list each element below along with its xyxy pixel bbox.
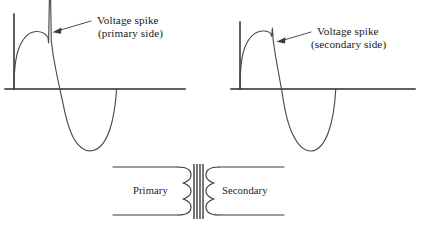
primary-leader-arrowhead [53,28,62,34]
primary-coil [178,167,191,215]
secondary-spike-label-line1: Voltage spike [317,25,379,37]
secondary-waveform-plot: Voltage spike (secondary side) [231,22,415,151]
secondary-coil [206,167,219,215]
secondary-leader-arrowhead [277,37,286,43]
figure-root: Voltage spike (primary side) Voltage spi… [0,0,424,233]
secondary-coil-label: Secondary [222,185,268,196]
primary-coil-label: Primary [133,185,168,196]
transformer-symbol: Primary Secondary [113,164,284,219]
primary-spike-label-line2: (primary side) [98,27,163,40]
primary-spike-label-line1: Voltage spike [97,14,159,26]
transformer-spike-figure: Voltage spike (primary side) Voltage spi… [0,0,424,233]
secondary-spike-label-line2: (secondary side) [311,38,386,51]
secondary-leader-line [284,32,311,40]
primary-leader-line [59,21,91,31]
primary-waveform-plot: Voltage spike (primary side) [5,0,185,151]
